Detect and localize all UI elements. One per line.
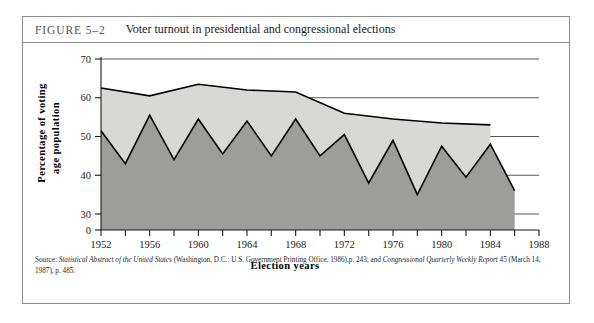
x-tick-label: 1984 bbox=[480, 239, 502, 250]
source-note: Source: Statistical Abstract of the Unit… bbox=[35, 255, 559, 277]
x-tick-label: 1960 bbox=[188, 239, 209, 250]
x-tick-label: 1952 bbox=[91, 239, 112, 250]
x-tick-label: 1972 bbox=[334, 239, 355, 250]
voter-turnout-chart: 03040506070 1952195619601964196819721976… bbox=[23, 43, 569, 279]
x-axis-ticks: 1952195619601964196819721976198019841988 bbox=[91, 230, 550, 250]
source-title-1: Statistical Abstract of the United State… bbox=[59, 256, 172, 264]
x-tick-label: 1980 bbox=[431, 239, 452, 250]
y-tick-label: 60 bbox=[81, 92, 92, 103]
y-tick-label: 0 bbox=[86, 225, 91, 236]
figure-caption-bar: FIGURE 5–2 Voter turnout in presidential… bbox=[23, 17, 569, 43]
y-tick-label: 40 bbox=[81, 170, 92, 181]
series-areas bbox=[101, 84, 515, 230]
x-tick-label: 1968 bbox=[285, 239, 306, 250]
y-tick-label: 30 bbox=[81, 209, 92, 220]
y-axis-ticks: 03040506070 bbox=[81, 54, 102, 236]
source-lead: Source: bbox=[35, 256, 59, 264]
y-axis-title-line2: age population bbox=[50, 102, 61, 174]
source-text-2: (Washington, D.C.: U.S. Government Print… bbox=[172, 256, 383, 264]
figure-number-label: FIGURE 5–2 bbox=[35, 24, 106, 36]
y-tick-label: 50 bbox=[81, 131, 92, 142]
x-tick-label: 1964 bbox=[237, 239, 259, 250]
x-tick-label: 1976 bbox=[383, 239, 404, 250]
figure-card: FIGURE 5–2 Voter turnout in presidential… bbox=[22, 16, 570, 304]
figure-title: Voter turnout in presidential and congre… bbox=[126, 22, 396, 37]
x-tick-label: 1956 bbox=[139, 239, 160, 250]
source-title-2: Congressional Quarterly Weekly Report bbox=[383, 256, 498, 264]
y-tick-label: 70 bbox=[81, 54, 92, 65]
y-axis-title-line1: Percentage of voting bbox=[36, 83, 47, 183]
x-tick-label: 1988 bbox=[529, 239, 550, 250]
